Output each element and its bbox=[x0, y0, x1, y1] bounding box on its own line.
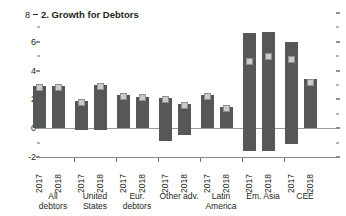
bar bbox=[262, 32, 275, 152]
x-axis-group-separator bbox=[200, 158, 201, 162]
x-axis-group-separator bbox=[158, 158, 159, 162]
bar bbox=[243, 33, 256, 151]
y-axis-right bbox=[336, 13, 346, 157]
x-axis-group-separator bbox=[242, 158, 243, 162]
plot-area bbox=[40, 13, 336, 157]
y-axis-right-tick-mark bbox=[336, 70, 340, 71]
bar-marker bbox=[223, 105, 230, 112]
bar bbox=[304, 79, 317, 128]
bar-marker bbox=[181, 102, 188, 109]
y-axis-right-tick-mark bbox=[336, 128, 340, 129]
bar-marker bbox=[246, 58, 253, 65]
x-axis-group-separator bbox=[116, 158, 117, 162]
y-axis-right-minor-tick bbox=[336, 142, 339, 143]
bar-marker bbox=[55, 84, 62, 91]
bar-marker bbox=[78, 99, 85, 106]
y-axis-right-minor-tick bbox=[336, 85, 339, 86]
bar bbox=[117, 95, 130, 128]
bar bbox=[52, 86, 65, 128]
bar bbox=[159, 98, 172, 141]
bar-marker bbox=[36, 84, 43, 91]
bar-marker bbox=[162, 96, 169, 103]
y-axis-tick-label: -2 bbox=[28, 152, 36, 162]
bar-marker bbox=[120, 93, 127, 100]
bar-marker bbox=[288, 56, 295, 63]
x-axis-group-separator bbox=[284, 158, 285, 162]
y-axis-right-tick-mark bbox=[336, 41, 340, 42]
bar bbox=[33, 86, 46, 128]
bar bbox=[201, 95, 214, 128]
chart-panel: 8 2. Growth for Debtors 6420-2 20172018A… bbox=[0, 0, 346, 216]
bar-marker bbox=[265, 53, 272, 60]
y-axis-right-minor-tick bbox=[336, 56, 339, 57]
bar-marker bbox=[97, 83, 104, 90]
bar bbox=[94, 85, 107, 130]
bar-marker bbox=[139, 94, 146, 101]
y-axis-right-minor-tick bbox=[336, 27, 339, 28]
x-axis: 20172018All debtors20172018United States… bbox=[38, 157, 338, 163]
bar-marker bbox=[204, 93, 211, 100]
y-axis-right-tick-mark bbox=[336, 99, 340, 100]
y-axis-right-minor-tick bbox=[336, 113, 339, 114]
x-axis-group-separator bbox=[74, 158, 75, 162]
x-axis-group-label: CEE bbox=[274, 191, 336, 201]
y-axis: 6420-2 bbox=[0, 13, 40, 157]
x-axis-line bbox=[38, 157, 338, 158]
bar-marker bbox=[307, 79, 314, 86]
y-axis-right-tick-mark bbox=[336, 13, 340, 14]
